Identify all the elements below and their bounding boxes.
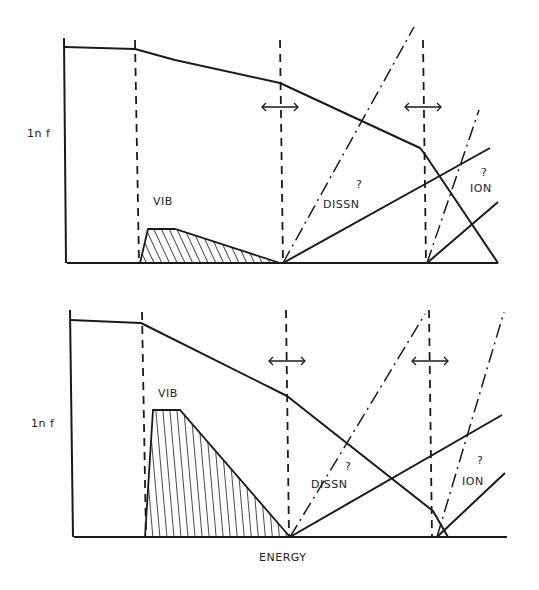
vib-label: VIB <box>158 387 178 400</box>
vib-hatched-region <box>145 410 290 537</box>
y-axis-label: 1n f <box>27 127 51 140</box>
ion-label: ION <box>462 475 484 488</box>
vib-hatched-region <box>140 229 280 263</box>
threshold-line-vib <box>135 40 139 263</box>
threshold-line-dissn <box>280 40 283 263</box>
ion-rate-dashdot <box>437 312 504 537</box>
x-axis-label: ENERGY <box>259 551 306 564</box>
diagram-figure: 1n f VIB DISSN ION ? ? 1n f VIB DI <box>0 0 539 590</box>
vib-label: VIB <box>153 195 173 208</box>
double-arrow-icon <box>405 103 441 111</box>
dissn-rate-dashdot <box>290 314 425 537</box>
dissn-label: DISSN <box>323 198 359 211</box>
bottom-panel: 1n f VIB DISSN ION ? ? ENERGY <box>31 310 507 564</box>
y-axis <box>64 38 66 263</box>
ion-label: ION <box>470 182 492 195</box>
top-panel: 1n f VIB DISSN ION ? ? <box>27 27 498 263</box>
y-axis <box>70 310 73 537</box>
dissn-label: DISSN <box>311 478 347 491</box>
threshold-line-dissn <box>286 310 289 537</box>
double-arrow-icon <box>262 103 298 111</box>
uncertainty-mark: ? <box>477 454 483 467</box>
uncertainty-mark: ? <box>481 166 487 179</box>
threshold-line-ion <box>429 310 432 537</box>
uncertainty-mark: ? <box>345 460 351 473</box>
uncertainty-mark: ? <box>356 178 362 191</box>
threshold-line-vib <box>142 312 146 537</box>
diagram-canvas: 1n f VIB DISSN ION ? ? 1n f VIB DI <box>0 0 539 590</box>
y-axis-label: 1n f <box>31 417 55 430</box>
